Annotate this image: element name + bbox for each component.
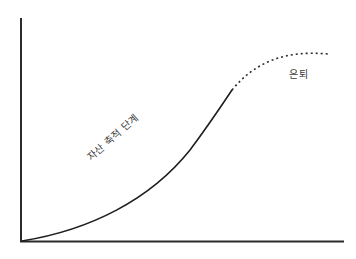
growth-curve-diagram <box>0 0 356 259</box>
retirement-curve <box>232 53 328 90</box>
retirement-label: 은퇴 <box>289 66 308 81</box>
